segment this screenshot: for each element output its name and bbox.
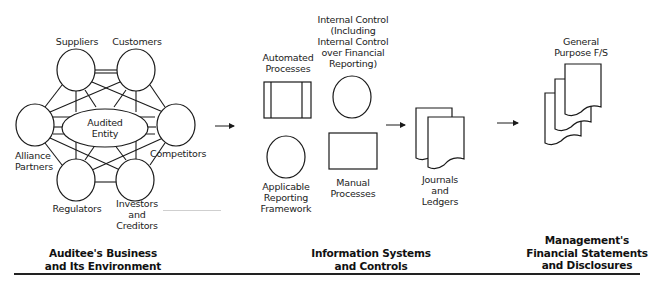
reporting-line: Reporting [256,192,316,203]
financial-statements-icon [545,64,601,145]
internal-control-node [333,76,371,118]
business-caption: Auditee's Business and Its Environment [38,247,168,272]
journals-and-line: and [420,185,460,196]
journals-ledgers-icon [416,108,464,169]
suppliers-label: Suppliers [52,36,102,47]
regulators-node [57,159,95,201]
applicable-line: Applicable [256,181,316,192]
general-line: General [548,36,614,47]
manual-processes-label: Manual Processes [323,177,383,199]
regulators-label: Regulators [50,203,104,214]
manual-processes-line: Processes [323,188,383,199]
processes-line: Processes [258,63,318,74]
investors-line: Investors [112,198,162,209]
systems-caption: Information Systems and Controls [306,247,436,272]
manual-processes-shape [329,133,377,169]
audited-entity-label: Audited Entity [80,117,130,139]
suppliers-node [57,49,95,91]
manual-line: Manual [323,177,383,188]
automated-line: Automated [258,52,318,63]
competitors-label: Competitors [150,148,206,159]
automated-processes-shape [264,82,311,118]
competitors-node [157,104,195,146]
customers-label: Customers [108,36,166,47]
applicable-framework-label: Applicable Reporting Framework [256,181,316,214]
entity-line: Entity [80,128,130,139]
bottom-rule [14,273,640,275]
statements-caption: Management's Financial Statements and Di… [522,234,652,272]
ic-line-2: (Including [316,25,390,36]
and-line: and [112,209,162,220]
customers-node [117,49,155,91]
alliance-partners-label: Alliance Partners [15,150,53,172]
alliance-line: Alliance [15,150,53,161]
audited-line: Audited [80,117,130,128]
faint-line [163,210,221,211]
systems-caption-line-2: and Controls [306,260,436,273]
partners-line: Partners [15,161,53,172]
purpose-fs-line: Purpose F/S [548,47,614,58]
business-caption-line-2: and Its Environment [38,260,168,273]
ic-line-3: Internal Control [316,36,390,47]
creditors-line: Creditors [112,220,162,231]
journals-ledgers-label: Journals and Ledgers [420,174,460,207]
general-purpose-label: General Purpose F/S [548,36,614,58]
automated-processes-label: Automated Processes [258,52,318,74]
ic-line-5: Reporting) [316,58,390,69]
ic-line-4: over Financial [316,47,390,58]
ic-line-1: Internal Control [316,14,390,25]
systems-caption-line-1: Information Systems [306,247,436,260]
business-caption-line-1: Auditee's Business [38,247,168,260]
statements-caption-line-1: Management's [522,234,652,247]
applicable-framework-node [267,136,305,178]
statements-caption-line-2: Financial Statements [522,247,652,260]
investors-label: Investors and Creditors [112,198,162,231]
ledgers-line: Ledgers [420,196,460,207]
statements-caption-line-3: and Disclosures [522,259,652,272]
framework-line: Framework [256,203,316,214]
internal-control-label: Internal Control (Including Internal Con… [316,14,390,69]
journals-line: Journals [420,174,460,185]
investors-node [116,159,154,201]
alliance-partners-node [16,104,54,146]
